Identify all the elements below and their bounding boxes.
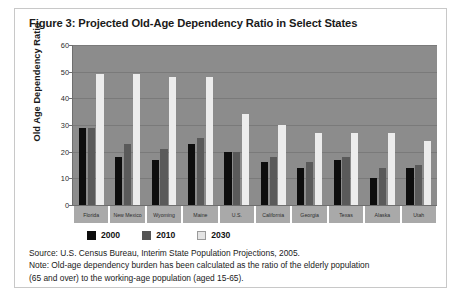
y-axis-tick-labels: 0102030405060 xyxy=(47,45,69,205)
y-axis-tick-mark xyxy=(69,178,73,179)
bar-2030 xyxy=(242,114,249,205)
bar-group xyxy=(291,45,327,205)
x-axis-category-strip: FloridaNew MexicoWyomingMaineU.S.Califor… xyxy=(73,206,437,223)
bar-2030 xyxy=(315,133,322,205)
bar-group xyxy=(146,45,182,205)
bar-2010 xyxy=(197,138,204,205)
bar-2030 xyxy=(278,125,285,205)
x-axis-category-label: Utah xyxy=(401,206,437,223)
x-axis-category-label: Wyoming xyxy=(146,206,182,223)
y-axis-tick-mark xyxy=(69,45,73,46)
y-axis-tick-label: 0 xyxy=(51,201,69,210)
y-axis-tick-mark xyxy=(69,205,73,206)
bar-group xyxy=(219,45,255,205)
legend-item: 2010 xyxy=(142,230,175,240)
bar-group xyxy=(255,45,291,205)
bar-2030 xyxy=(388,133,395,205)
figure-panel: Figure 3: Projected Old-Age Dependency R… xyxy=(14,8,447,288)
bar-group xyxy=(328,45,364,205)
y-axis-tick-mark xyxy=(69,98,73,99)
footnote-note-line-2: (65 and over) to the working-age populat… xyxy=(29,272,439,284)
legend-swatch-icon xyxy=(197,231,206,240)
y-axis-label: Old Age Dependency Ratio xyxy=(32,7,42,157)
bar-group xyxy=(73,45,109,205)
bar-group xyxy=(364,45,400,205)
bar-2030 xyxy=(351,133,358,205)
bar-2010 xyxy=(88,128,95,205)
x-axis-category-label: California xyxy=(255,206,291,223)
bar-2010 xyxy=(306,162,313,205)
bar-2000 xyxy=(152,160,159,205)
x-axis-category-label: Maine xyxy=(182,206,218,223)
bar-2010 xyxy=(342,157,349,205)
legend-label: 2030 xyxy=(211,230,230,240)
bar-2030 xyxy=(206,77,213,205)
footnote-source: Source: U.S. Census Bureau, Interim Stat… xyxy=(29,247,439,259)
y-axis-tick-label: 10 xyxy=(51,174,69,183)
y-axis-tick-mark xyxy=(69,152,73,153)
footnote-note-line-1: Note: Old-age dependency burden has been… xyxy=(29,259,439,271)
x-axis-category-label: Texas xyxy=(328,206,364,223)
x-axis-category-label: Florida xyxy=(73,206,109,223)
figure-title: Figure 3: Projected Old-Age Dependency R… xyxy=(29,17,437,29)
plot-area xyxy=(73,45,437,205)
x-axis-category-label: Alaska xyxy=(364,206,400,223)
bar-2010 xyxy=(124,144,131,205)
legend-label: 2010 xyxy=(156,230,175,240)
bar-2010 xyxy=(233,152,240,205)
footnotes: Source: U.S. Census Bureau, Interim Stat… xyxy=(29,247,439,284)
y-axis-tick-label: 30 xyxy=(51,121,69,130)
bar-2010 xyxy=(270,157,277,205)
bar-group xyxy=(401,45,437,205)
y-axis-tick-mark xyxy=(69,72,73,73)
bar-2000 xyxy=(297,168,304,205)
bar-2000 xyxy=(261,162,268,205)
bar-2010 xyxy=(160,149,167,205)
x-axis-category-label: Georgia xyxy=(291,206,327,223)
bar-2000 xyxy=(370,178,377,205)
y-axis-tick-label: 50 xyxy=(51,67,69,76)
chart-legend: 200020102030 xyxy=(87,229,230,241)
bar-2000 xyxy=(224,152,231,205)
bar-2000 xyxy=(406,168,413,205)
legend-label: 2000 xyxy=(101,230,120,240)
x-axis-category-label: U.S. xyxy=(219,206,255,223)
legend-swatch-icon xyxy=(142,231,151,240)
legend-item: 2000 xyxy=(87,230,120,240)
y-axis-tick-mark xyxy=(69,125,73,126)
bar-2000 xyxy=(334,160,341,205)
bar-2000 xyxy=(188,144,195,205)
legend-swatch-icon xyxy=(87,231,96,240)
bar-2010 xyxy=(379,168,386,205)
bar-2000 xyxy=(79,128,86,205)
bar-2030 xyxy=(133,74,140,205)
bar-2010 xyxy=(415,165,422,205)
x-axis-category-label: New Mexico xyxy=(109,206,145,223)
bar-2030 xyxy=(424,141,431,205)
y-axis-tick-label: 60 xyxy=(51,41,69,50)
legend-item: 2030 xyxy=(197,230,230,240)
bar-group xyxy=(109,45,145,205)
y-axis-tick-label: 20 xyxy=(51,147,69,156)
bar-group xyxy=(182,45,218,205)
bar-2030 xyxy=(96,74,103,205)
y-axis-tick-label: 40 xyxy=(51,94,69,103)
bar-2000 xyxy=(115,157,122,205)
bar-2030 xyxy=(169,77,176,205)
